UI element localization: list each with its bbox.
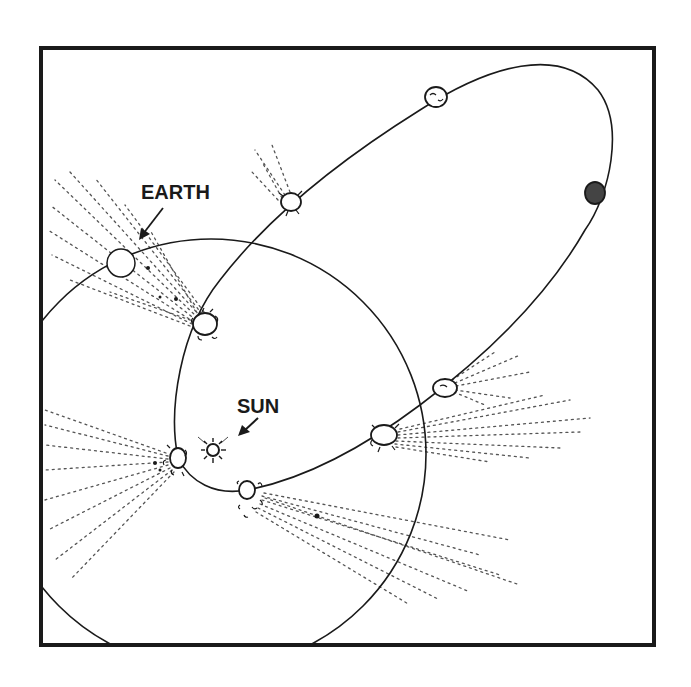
comet-position-4 xyxy=(433,379,457,397)
comet-position-7 xyxy=(163,445,186,476)
comet-tail-8 xyxy=(256,493,520,605)
diagram-frame xyxy=(41,48,654,645)
earth-icon xyxy=(107,249,135,277)
comet-position-5 xyxy=(192,308,218,340)
earth-arrow xyxy=(139,208,163,240)
sun-label: SUN xyxy=(237,395,279,417)
comet-position-2 xyxy=(585,182,605,204)
earth-label: EARTH xyxy=(141,181,210,203)
meteoroid-debris xyxy=(146,266,320,519)
comet-tail-3 xyxy=(252,145,290,200)
comet-position-1 xyxy=(425,87,447,107)
comet-position-6 xyxy=(371,424,399,452)
sun-icon xyxy=(198,437,228,463)
sun-arrow xyxy=(238,418,258,436)
comet-tail-7 xyxy=(45,410,174,580)
comet-position-8 xyxy=(237,481,262,517)
comet-tail-4 xyxy=(452,352,530,405)
comet-orbit-diagram: EARTH SUN xyxy=(0,0,691,687)
